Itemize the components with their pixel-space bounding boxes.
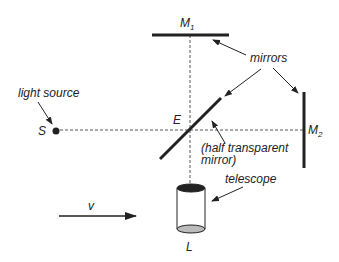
velocity-label: v bbox=[88, 199, 95, 213]
e-label: E bbox=[173, 113, 182, 127]
arrow-to-half-mirror-label bbox=[212, 121, 225, 143]
arrow-to-source bbox=[38, 102, 52, 124]
l-label: L bbox=[186, 240, 193, 254]
interferometer-diagram: M1 M2 E mirrors light source S (half tra… bbox=[0, 0, 339, 262]
m1-label: M1 bbox=[180, 16, 194, 32]
arrow-to-m2 bbox=[273, 68, 298, 93]
telescope-label: telescope bbox=[225, 172, 277, 186]
telescope-top-lens bbox=[177, 184, 205, 192]
s-label: S bbox=[38, 124, 46, 138]
half-transparent-label-line2: mirror) bbox=[201, 153, 236, 167]
arrow-to-half-mirror bbox=[225, 69, 261, 96]
m2-label: M2 bbox=[308, 123, 323, 139]
arrow-to-m1 bbox=[213, 40, 246, 55]
light-source-label: light source bbox=[18, 86, 80, 100]
telescope-bottom-lens bbox=[177, 225, 205, 233]
telescope bbox=[177, 184, 205, 233]
mirrors-label: mirrors bbox=[250, 51, 287, 65]
light-source-dot bbox=[53, 128, 60, 135]
arrow-to-telescope bbox=[212, 187, 243, 201]
